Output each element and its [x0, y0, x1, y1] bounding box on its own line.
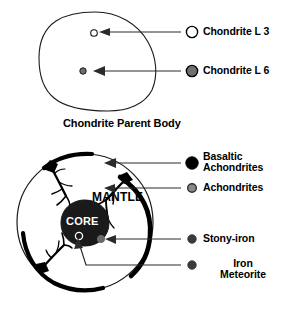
chondrite-parent-body-shape	[39, 12, 156, 111]
legend-marker-iron-meteorite	[188, 261, 196, 269]
core-label: CORE	[66, 216, 99, 228]
legend-label-basaltic-achondrites-line2: Achondrites	[203, 161, 263, 173]
chondrite-l3-marker	[91, 30, 98, 37]
legend-label-iron-meteorite-line2: Meteorite	[220, 268, 266, 280]
chondrite-l6-marker	[80, 68, 86, 74]
legend-label-achondrites: Achondrites	[203, 182, 263, 193]
legend-label-basaltic-achondrites: BasalticAchondrites	[203, 151, 281, 173]
mantle-label: MANTLE	[92, 191, 143, 204]
legend-marker-stony-iron	[188, 235, 196, 243]
legend-label-chondrite-l3: Chondrite L 3	[203, 26, 269, 37]
stony-iron-marker	[97, 235, 104, 242]
basaltic-achondrites-leader-arrow	[104, 158, 181, 168]
legend-label-stony-iron: Stony-iron	[203, 233, 255, 244]
legend-marker-chondrite-l3	[186, 26, 197, 37]
legend-marker-basaltic-achondrites	[186, 157, 198, 169]
legend-marker-chondrite-l6	[186, 65, 197, 76]
meteorite-parent-body-figure: Chondrite L 3 Chondrite L 6 Chondrite Pa…	[0, 0, 283, 316]
legend-label-iron-meteorite: IronMeteorite	[205, 258, 281, 280]
legend-label-chondrite-l6: Chondrite L 6	[203, 65, 269, 76]
figure-caption: Chondrite Parent Body	[63, 118, 181, 130]
legend-marker-achondrites	[188, 184, 197, 193]
iron-meteorite-marker	[75, 232, 82, 239]
